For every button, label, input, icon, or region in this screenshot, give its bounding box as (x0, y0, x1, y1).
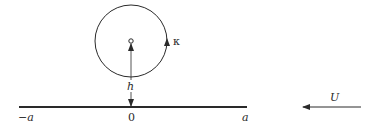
vortex-center-marker (129, 39, 133, 43)
plate-right-label: a (242, 111, 249, 124)
plate-left-label: −a (18, 111, 34, 124)
kappa-label: κ (173, 35, 180, 48)
stream-label: U (330, 91, 340, 104)
height-label: h (127, 80, 134, 93)
vortex-plate-diagram: κ h −a 0 a U (0, 0, 378, 129)
plate-center-label: 0 (128, 111, 135, 124)
circulation-arrow-icon (164, 38, 170, 46)
